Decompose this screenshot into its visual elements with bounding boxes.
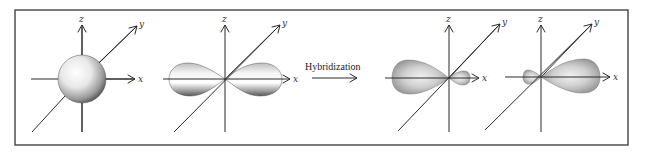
z-axis-label: z: [221, 14, 227, 24]
x-axis-label: x: [293, 74, 298, 84]
p-orbital-panel: z x y: [163, 14, 298, 132]
y-axis-label: y: [501, 17, 508, 27]
y-axis-label: y: [138, 19, 145, 29]
hybridization-transition: Hybridization: [305, 61, 361, 82]
hybrid-large-lobe-left: [392, 60, 449, 94]
z-axis-label: z: [78, 14, 84, 24]
hybridization-label: Hybridization: [305, 61, 361, 72]
orbital-hybridization-figure: z x y z x y Hybridization z x y: [0, 0, 645, 154]
y-axis-label: y: [281, 18, 288, 28]
y-axis-label: y: [593, 17, 600, 27]
x-axis-label: x: [138, 74, 143, 84]
z-axis-label: z: [445, 14, 451, 24]
x-axis-label: x: [482, 73, 487, 83]
s-orbital-panel: z x y: [31, 14, 145, 132]
y-axis-top: [99, 26, 137, 63]
s-orbital-sphere: [58, 55, 106, 103]
y-axis-front: [32, 96, 65, 132]
sp-hybrid-right-panel: z x y: [485, 14, 618, 132]
hybrid-large-lobe-right: [541, 59, 600, 93]
z-axis-label: z: [537, 14, 543, 24]
sp-hybrid-left-panel: z x y: [385, 14, 508, 132]
x-axis-label: x: [613, 72, 618, 82]
